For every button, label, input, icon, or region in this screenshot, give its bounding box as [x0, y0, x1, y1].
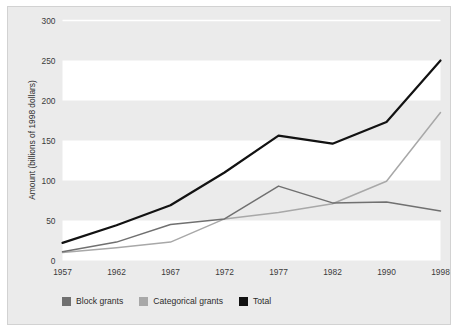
x-tick-label: 1967 [161, 267, 180, 277]
y-tick-label: 150 [42, 136, 56, 146]
line-chart: 050100150200250300 195719621967197219771… [0, 0, 458, 332]
plot-bands [63, 61, 441, 261]
legend-item-block-grants[interactable]: Block grants [62, 296, 123, 306]
legend-swatch-icon [239, 297, 248, 306]
legend-swatch-icon [139, 297, 148, 306]
y-tick-label: 200 [42, 96, 56, 106]
legend-label: Categorical grants [153, 296, 223, 306]
x-tick-label: 1962 [107, 267, 126, 277]
y-tick-label: 100 [42, 176, 56, 186]
x-axis-ticks: 19571962196719721977198219901998 [53, 267, 450, 277]
plot-wrapper: 050100150200250300 195719621967197219771… [0, 0, 458, 332]
y-tick-label: 250 [42, 56, 56, 66]
y-tick-label: 0 [51, 256, 56, 266]
chart-legend: Block grantsCategorical grantsTotal [62, 296, 287, 306]
x-tick-label: 1972 [215, 267, 234, 277]
figure-container: 050100150200250300 195719621967197219771… [0, 0, 458, 332]
x-tick-label: 1990 [377, 267, 396, 277]
x-tick-label: 1998 [431, 267, 450, 277]
legend-swatch-icon [62, 297, 71, 306]
x-tick-label: 1982 [323, 267, 342, 277]
legend-label: Block grants [76, 296, 123, 306]
x-tick-label: 1957 [53, 267, 72, 277]
y-tick-label: 50 [46, 216, 56, 226]
legend-item-categorical-grants[interactable]: Categorical grants [139, 296, 223, 306]
y-axis-title: Amount (billions of 1998 dollars) [27, 80, 37, 200]
y-axis-ticks: 050100150200250300 [42, 16, 56, 266]
legend-label: Total [253, 296, 271, 306]
legend-item-total[interactable]: Total [239, 296, 271, 306]
y-tick-label: 300 [42, 16, 56, 26]
x-tick-label: 1977 [269, 267, 288, 277]
